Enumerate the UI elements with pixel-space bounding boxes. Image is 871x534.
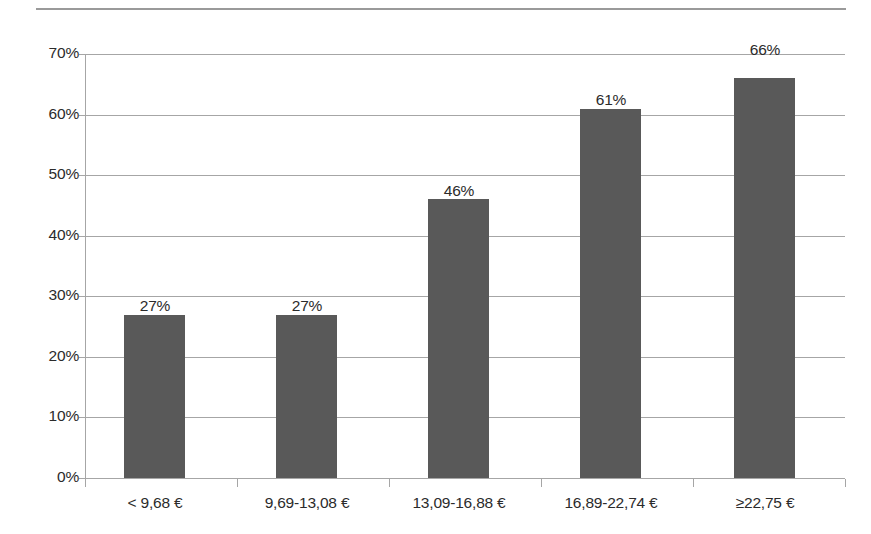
y-tick-label-20-wrap: 20%	[0, 347, 79, 367]
y-tick-label-10: 10%	[9, 407, 79, 425]
x-tick-3	[541, 479, 542, 487]
y-tick-label-40: 40%	[9, 226, 79, 244]
y-tick-60	[79, 115, 85, 116]
y-tick-label-50-wrap: 50%	[0, 165, 79, 185]
x-tick-1	[237, 479, 238, 487]
y-tick-50	[79, 175, 85, 176]
y-tick-label-70-wrap: 70%	[0, 44, 79, 64]
y-tick-label-0: 0%	[9, 468, 79, 486]
bar-chart: 70% 60% 50% 40% 30% 20% 10% 0% 27% 27% 4…	[0, 0, 871, 534]
x-tick-0	[85, 479, 86, 487]
x-axis-line	[85, 478, 845, 479]
y-tick-label-30: 30%	[9, 286, 79, 304]
bar-category-5[interactable]	[734, 78, 795, 478]
y-tick-label-20: 20%	[9, 347, 79, 365]
y-tick-20	[79, 357, 85, 358]
chart-screenshot: 70% 60% 50% 40% 30% 20% 10% 0% 27% 27% 4…	[0, 0, 871, 534]
bar-category-3[interactable]	[428, 199, 489, 478]
y-tick-30	[79, 296, 85, 297]
bar-value-label-1: 27%	[110, 297, 200, 315]
bar-value-label-5: 66%	[720, 41, 810, 59]
x-tick-label-5: ≥22,75 €	[680, 494, 850, 512]
x-tick-label-2: 9,69-13,08 €	[222, 494, 392, 512]
x-tick-2	[389, 479, 390, 487]
x-tick-5	[845, 479, 846, 487]
x-tick-4	[693, 479, 694, 487]
y-tick-label-70: 70%	[9, 44, 79, 62]
gridline-60	[85, 115, 845, 116]
y-axis-line	[85, 54, 86, 479]
x-tick-label-3: 13,09-16,88 €	[374, 494, 544, 512]
y-tick-label-10-wrap: 10%	[0, 407, 79, 427]
y-tick-label-50: 50%	[9, 165, 79, 183]
y-tick-40	[79, 236, 85, 237]
x-tick-label-4: 16,89-22,74 €	[526, 494, 696, 512]
bar-category-4[interactable]	[580, 109, 641, 479]
bar-category-2[interactable]	[276, 315, 337, 479]
y-tick-label-60-wrap: 60%	[0, 105, 79, 125]
bar-category-1[interactable]	[124, 315, 185, 479]
bar-value-label-4: 61%	[566, 91, 656, 109]
x-tick-label-1: < 9,68 €	[70, 494, 240, 512]
y-tick-70	[79, 54, 85, 55]
y-tick-10	[79, 417, 85, 418]
y-tick-label-30-wrap: 30%	[0, 286, 79, 306]
bar-value-label-2: 27%	[262, 297, 352, 315]
plot-area	[85, 54, 845, 478]
y-tick-label-40-wrap: 40%	[0, 226, 79, 246]
gridline-50	[85, 175, 845, 176]
y-tick-label-60: 60%	[9, 105, 79, 123]
bar-value-label-3: 46%	[414, 182, 504, 200]
y-tick-label-0-wrap: 0%	[0, 468, 79, 488]
